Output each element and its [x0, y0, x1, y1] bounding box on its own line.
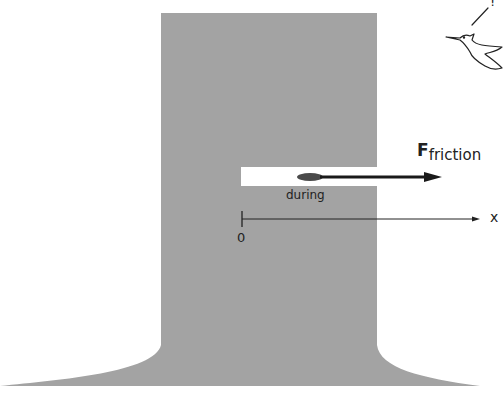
- bullet: [297, 173, 323, 181]
- x-axis-label: x: [490, 209, 498, 225]
- origin-label: 0: [237, 230, 245, 245]
- during-label: during: [286, 188, 325, 202]
- tree-trunk: [0, 13, 480, 386]
- force-label-subscript: friction: [429, 146, 482, 164]
- diagram-canvas: [0, 0, 504, 401]
- x-axis-arrowhead: [472, 217, 480, 222]
- friction-arrow-head: [424, 172, 442, 182]
- bird-icon: [446, 8, 502, 69]
- force-label-main: F: [417, 140, 429, 160]
- bird-exclamation: !: [490, 0, 495, 9]
- force-label: Ffriction: [417, 140, 481, 160]
